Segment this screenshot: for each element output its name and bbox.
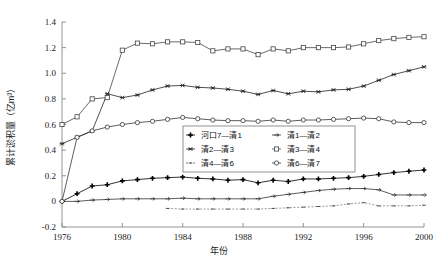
data-point-marker [316,46,320,50]
data-point-marker [241,197,246,200]
data-point-marker [376,188,381,191]
x-tick-label: 1984 [174,232,193,242]
legend-label: 清6—清7 [287,158,320,168]
data-point-marker [256,93,261,97]
data-point-marker [211,49,215,53]
data-point-marker [90,198,95,201]
data-point-marker [135,197,140,200]
data-point-marker [271,195,276,198]
data-point-marker [196,40,200,44]
legend-label: 清3—清4 [287,144,320,154]
data-point-marker [105,198,110,201]
data-point-marker [195,197,200,200]
data-point-marker [210,86,215,90]
data-point-marker [120,122,124,126]
data-point-marker [226,87,231,91]
data-point-marker [210,197,215,200]
data-point-marker [150,88,155,92]
series-line [62,189,424,202]
y-tick-label: 0.4 [45,145,57,155]
data-point-marker [241,119,245,123]
y-tick-label: 1.2 [45,43,56,53]
data-point-marker [392,120,396,124]
x-tick-label: 1996 [355,232,374,242]
data-point-marker [256,180,261,185]
data-point-marker [331,188,336,191]
data-point-marker [274,161,278,165]
data-point-marker [274,147,278,151]
data-point-marker [165,40,169,44]
data-point-marker [120,178,125,183]
y-tick-label: 0 [52,196,57,206]
data-point-marker [331,46,335,50]
data-point-marker [256,119,260,123]
data-point-marker [286,49,290,53]
data-point-marker [165,175,170,180]
series-line [62,170,424,201]
x-tick-label: 2000 [415,232,434,242]
data-point-marker [105,95,109,99]
data-point-marker [241,47,245,51]
data-point-marker [195,176,200,181]
data-point-marker [180,197,185,200]
data-point-marker [150,119,154,123]
data-point-marker [407,169,412,174]
data-point-marker [392,37,396,41]
x-tick-label: 1988 [234,232,253,242]
series-1 [60,168,427,204]
y-tick-label: -0.2 [42,222,56,232]
data-point-marker [211,118,215,122]
data-point-marker [75,200,80,203]
data-point-marker [316,118,320,122]
data-point-marker [60,122,64,126]
data-point-marker [196,117,200,121]
data-point-marker [362,116,366,120]
data-point-marker [316,177,321,182]
data-point-marker [376,78,381,82]
data-point-marker [391,170,396,175]
data-point-marker [286,193,291,196]
data-point-marker [422,168,427,173]
y-tick-label: 0.2 [45,171,56,181]
legend-label: 河口7—清1 [201,130,242,140]
series-4 [60,35,426,127]
data-point-marker [105,182,110,187]
data-point-marker [181,40,185,44]
data-point-marker [241,89,246,93]
data-point-marker [90,184,95,189]
data-point-marker [301,177,306,182]
series-5 [166,203,426,209]
data-point-marker [75,115,79,119]
data-point-marker [120,48,124,52]
data-point-marker [361,187,366,190]
data-point-marker [210,177,215,182]
data-point-marker [226,178,231,183]
data-point-marker [150,197,155,200]
data-point-marker [75,135,79,139]
data-point-marker [377,38,381,42]
data-point-marker [286,179,291,184]
data-point-marker [226,119,230,123]
series-2 [60,187,427,203]
data-point-marker [135,41,139,45]
data-point-marker [271,89,276,93]
series-line [168,203,424,209]
y-tick-label: 0.6 [45,120,57,130]
data-point-marker [301,118,305,122]
legend-label: 清1—清2 [287,130,320,140]
data-point-marker [105,125,109,129]
data-point-marker [286,92,291,96]
legend-label: 清2—清3 [201,144,234,154]
data-point-marker [422,65,427,69]
data-point-marker [301,191,306,194]
data-point-marker [286,119,290,123]
data-point-marker [120,197,125,200]
data-point-marker [271,178,276,183]
data-point-marker [226,197,231,200]
legend-label: 清4—清6 [201,158,234,168]
data-point-marker [361,84,366,88]
data-point-marker [331,117,335,121]
data-point-marker [346,45,350,49]
data-point-marker [180,175,185,180]
data-point-marker [165,84,170,88]
